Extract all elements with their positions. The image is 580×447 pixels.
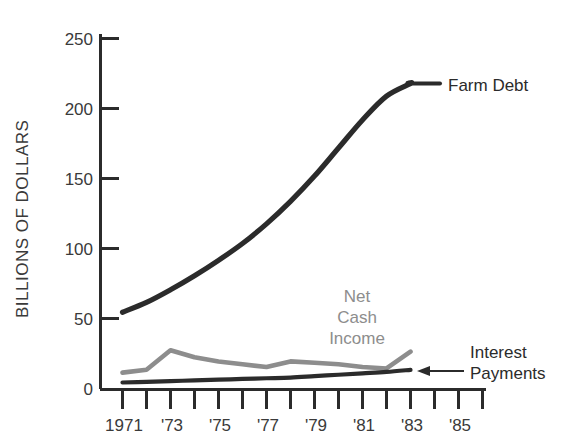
y-tick-label-250: 250 — [65, 30, 93, 49]
interest-payments-arrow-icon — [417, 366, 464, 376]
x-tick-label-1973: '73 — [161, 416, 183, 435]
x-tick-label-1981: '81 — [353, 416, 375, 435]
series-line-interest-payments — [123, 370, 411, 383]
net-cash-income-label-line2: Cash — [337, 308, 377, 327]
y-tick-label-0: 0 — [84, 380, 93, 399]
net-cash-income-label-line3: Income — [329, 329, 385, 348]
x-tick-label-1985: '85 — [449, 416, 471, 435]
x-tick-label-1979: '79 — [305, 416, 327, 435]
farm-finance-line-chart: 250 200 150 100 50 0 BILLIONS OF DOLLARS — [0, 0, 580, 447]
x-tick-marks — [123, 390, 483, 409]
net-cash-income-label-line1: Net — [344, 287, 371, 306]
x-tick-label-1977: '77 — [257, 416, 279, 435]
chart-canvas: 250 200 150 100 50 0 BILLIONS OF DOLLARS — [0, 0, 580, 447]
y-tick-label-100: 100 — [65, 240, 93, 259]
x-tick-label-1971: 1971 — [105, 416, 143, 435]
y-tick-label-200: 200 — [65, 100, 93, 119]
y-tick-label-150: 150 — [65, 170, 93, 189]
x-tick-label-1975: '75 — [209, 416, 231, 435]
farm-debt-label: Farm Debt — [448, 76, 529, 95]
series-line-farm-debt — [123, 82, 412, 312]
y-tick-marks — [101, 39, 119, 319]
y-tick-label-50: 50 — [74, 310, 93, 329]
series-line-net-cash-income — [123, 350, 411, 372]
y-axis-title: BILLIONS OF DOLLARS — [13, 120, 32, 318]
interest-payments-label-line1: Interest — [470, 343, 527, 362]
interest-payments-label-line2: Payments — [470, 364, 546, 383]
x-tick-label-1983: '83 — [401, 416, 423, 435]
